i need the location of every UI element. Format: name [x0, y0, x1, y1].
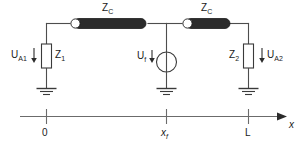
x-axis-tick-label-0: 0: [42, 128, 48, 138]
label-uf: Uf: [137, 51, 146, 63]
label-zc-left: ZC: [102, 3, 113, 15]
x-axis-label: x: [289, 120, 294, 130]
voltage-arrow-uf: [149, 50, 155, 63]
label-ua2: UA2: [267, 50, 283, 62]
label-zc-right: ZC: [201, 3, 212, 15]
voltage-arrow-ua1: [31, 48, 37, 63]
x-axis-tick-label-xf: xf: [161, 128, 168, 140]
ground-symbol-left: [37, 89, 57, 95]
impedance-z1-symbol: [42, 44, 52, 68]
impedance-z2-symbol: [244, 44, 254, 68]
circuit-diagram: ZC ZC UA1 Z1 Uf Z2 UA2 0 xf L x: [0, 0, 301, 144]
circuit-schematic-svg: [0, 0, 301, 144]
transmission-line-left-symbol: [71, 19, 146, 29]
x-axis: [20, 109, 287, 124]
voltage-arrow-ua2: [259, 48, 265, 63]
label-z2: Z2: [229, 50, 239, 62]
ground-symbol-right: [239, 89, 259, 95]
ground-symbol-center: [157, 89, 177, 95]
fault-source-symbol: [157, 52, 177, 72]
label-z1: Z1: [55, 50, 65, 62]
transmission-line-right-symbol: [183, 19, 230, 29]
label-ua1: UA1: [11, 50, 27, 62]
x-axis-tick-label-L: L: [245, 128, 251, 138]
x-axis-arrowhead: [277, 113, 287, 121]
